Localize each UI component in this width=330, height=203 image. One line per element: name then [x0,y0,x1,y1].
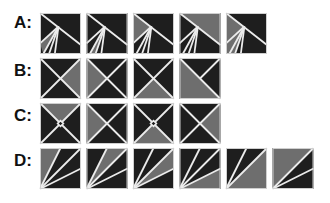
tile-b3 [133,58,174,99]
tile-a5 [226,13,267,54]
tile-c1 [40,103,81,144]
tile-c2 [87,103,128,144]
tile-b2 [87,58,128,99]
tile-b4 [180,58,221,99]
tile-a1 [40,13,81,54]
tile-d6 [273,148,314,189]
tile-d3 [133,148,174,189]
tile-d4 [180,148,221,189]
tile-d5 [226,148,267,189]
tile-a3 [133,13,174,54]
tile-c4 [180,103,221,144]
tile-a2 [87,13,128,54]
tile-d1 [40,148,81,189]
tile-grid [0,0,330,203]
tile-c3 [133,103,174,144]
tile-d2 [87,148,128,189]
tile-a4 [180,13,221,54]
tile-b1 [40,58,81,99]
